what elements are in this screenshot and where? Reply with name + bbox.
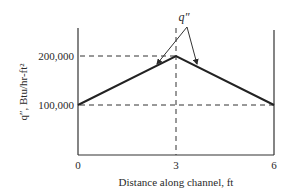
y-axis-title: q″, Btu/hr-ft² bbox=[17, 63, 29, 121]
heat-flux-chart: q″ 200,000 100,000 0 3 6 Distance along … bbox=[0, 0, 288, 196]
ytick-100000: 100,000 bbox=[38, 99, 74, 111]
xtick-6: 6 bbox=[271, 159, 277, 171]
annotation-label: q″ bbox=[179, 10, 191, 24]
xtick-0: 0 bbox=[75, 159, 81, 171]
ytick-200000: 200,000 bbox=[38, 50, 74, 62]
xtick-3: 3 bbox=[173, 159, 179, 171]
chart-canvas: q″ 200,000 100,000 0 3 6 Distance along … bbox=[0, 0, 288, 196]
heat-flux-line bbox=[78, 56, 274, 105]
x-axis-title: Distance along channel, ft bbox=[119, 176, 234, 188]
annotation-arrow-right bbox=[187, 27, 197, 64]
